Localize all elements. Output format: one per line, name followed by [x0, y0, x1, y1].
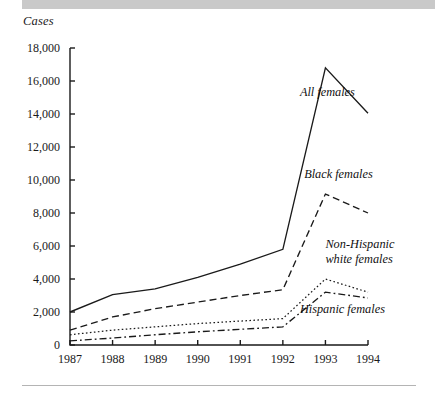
y-tick-label: 14,000	[8, 107, 60, 122]
chart-figure: Cases 02,0004,0006,0008,00010,00012,0001…	[0, 0, 435, 399]
y-tick-label: 6,000	[8, 239, 60, 254]
series-lines	[70, 68, 368, 341]
x-tick-label: 1994	[345, 352, 391, 367]
y-tick-label: 10,000	[8, 173, 60, 188]
y-axis-ticks	[70, 48, 75, 345]
plot-area	[0, 0, 435, 399]
x-tick-label: 1991	[217, 352, 263, 367]
y-tick-label: 18,000	[8, 41, 60, 56]
y-tick-label: 4,000	[8, 272, 60, 287]
x-tick-label: 1989	[132, 352, 178, 367]
series-label-0: All females	[300, 85, 355, 100]
series-line-0	[70, 68, 368, 312]
x-tick-label: 1992	[260, 352, 306, 367]
footer-rule	[22, 385, 416, 386]
y-tick-label: 8,000	[8, 206, 60, 221]
x-tick-label: 1988	[90, 352, 136, 367]
x-axis-ticks	[70, 340, 368, 345]
series-label-2: Non-Hispanicwhite females	[325, 237, 394, 266]
x-tick-label: 1987	[47, 352, 93, 367]
y-tick-label: 16,000	[8, 74, 60, 89]
series-label-1: Black females	[304, 167, 373, 182]
y-tick-label: 0	[8, 338, 60, 353]
y-tick-label: 2,000	[8, 305, 60, 320]
x-tick-label: 1990	[175, 352, 221, 367]
y-tick-label: 12,000	[8, 140, 60, 155]
series-label-3: Hispanic females	[300, 302, 385, 317]
x-tick-label: 1993	[302, 352, 348, 367]
